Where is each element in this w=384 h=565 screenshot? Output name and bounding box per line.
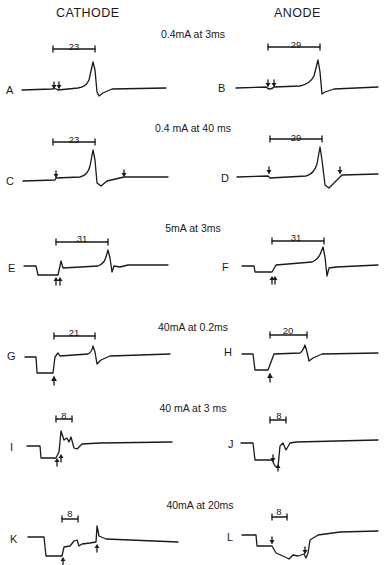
trace-c [23, 139, 168, 186]
trace-h [242, 332, 378, 382]
trace-a [22, 46, 166, 96]
trace-d [237, 136, 378, 188]
trace-l [242, 514, 378, 559]
trace-e [24, 239, 168, 285]
trace-j [241, 417, 378, 471]
trace-b [236, 44, 378, 94]
trace-k [28, 516, 178, 565]
traces-plot [0, 0, 384, 565]
trace-g [25, 333, 170, 385]
trace-i [27, 416, 172, 466]
trace-f [242, 238, 378, 284]
